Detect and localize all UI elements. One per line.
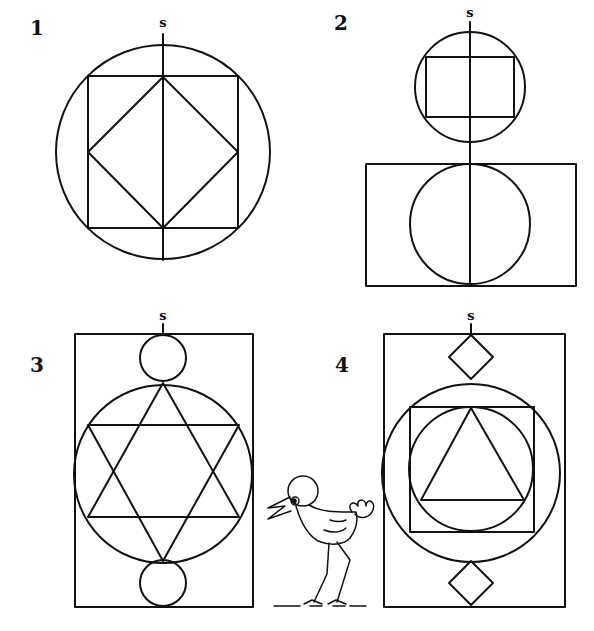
bird-leg-left	[314, 543, 329, 602]
bird-wing	[324, 520, 346, 532]
figure-number-4: 4	[335, 353, 349, 377]
axis-label-s: s	[466, 5, 473, 20]
polygon-shape	[88, 425, 239, 561]
polygon-shape	[421, 408, 524, 500]
figure-4-triangle-circle-square-diamonds: 4 s	[335, 308, 565, 607]
polygon-shape	[449, 561, 493, 605]
circle-shape	[140, 335, 186, 381]
figure-3-hexagram-in-circle: 3 s	[30, 308, 253, 607]
figure-2-two-circles-two-rectangles: 2 s	[334, 5, 576, 286]
geometric-diagram-sheet: 1 s 2 s 3 s 4 s	[0, 0, 594, 631]
figure-1-circle-square-diamond: 1 s	[30, 15, 270, 260]
bird-leg-right	[337, 542, 350, 602]
bird-pupil	[292, 499, 296, 503]
bird-illustration	[268, 476, 374, 606]
circle-shape	[140, 560, 186, 606]
bird-feet	[304, 600, 346, 604]
bird-beak	[268, 497, 291, 519]
rectangle-shape	[75, 334, 253, 607]
figure-number-3: 3	[30, 353, 44, 377]
polygon-shape	[449, 335, 493, 379]
bird-tail-curls	[350, 500, 374, 517]
circle-shape	[74, 385, 252, 563]
axis-label-s: s	[159, 308, 166, 323]
figure-number-2: 2	[334, 11, 348, 35]
figure-number-1: 1	[30, 16, 44, 40]
bird-body	[296, 505, 357, 544]
circle-shape	[409, 407, 533, 531]
axis-label-s: s	[467, 308, 474, 323]
axis-label-s: s	[159, 15, 166, 30]
